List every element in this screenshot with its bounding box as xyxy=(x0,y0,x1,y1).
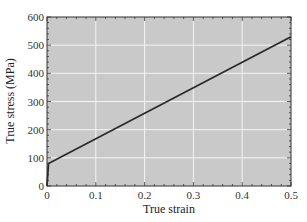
x-tick-label: 0.2 xyxy=(138,189,152,201)
stress-strain-chart: 00.10.20.30.40.5 0100200300400500600 Tru… xyxy=(0,0,307,222)
x-axis-title: True strain xyxy=(143,202,195,216)
y-tick-label: 600 xyxy=(28,11,45,23)
y-tick-label: 500 xyxy=(28,39,45,51)
x-tick-label: 0.4 xyxy=(235,189,249,201)
x-tick-label: 0.5 xyxy=(284,189,298,201)
y-tick-label: 0 xyxy=(39,180,45,192)
y-tick-label: 400 xyxy=(28,67,45,79)
x-tick-labels: 00.10.20.30.40.5 xyxy=(44,189,298,201)
x-tick-label: 0.1 xyxy=(89,189,103,201)
x-tick-label: 0.3 xyxy=(187,189,201,201)
y-axis-title: True stress (MPa) xyxy=(3,58,17,144)
y-tick-labels: 0100200300400500600 xyxy=(28,11,45,192)
y-tick-label: 100 xyxy=(28,152,45,164)
x-tick-label: 0 xyxy=(44,189,50,201)
y-tick-label: 300 xyxy=(28,96,45,108)
y-tick-label: 200 xyxy=(28,124,45,136)
